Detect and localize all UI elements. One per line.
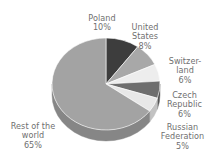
slice-label-rest-of-the-world-value: 65% xyxy=(2,141,64,151)
slice-label-poland-value: 10% xyxy=(78,23,126,33)
slice-label-rest-of-the-world: Rest of the world 65% xyxy=(2,112,64,160)
slice-label-russian-federation-value: 5% xyxy=(154,142,211,152)
slice-label-switzerland-name: Switzer- land xyxy=(169,56,202,76)
slice-label-poland: Poland 10% xyxy=(78,4,126,42)
pie-chart: Poland 10% United States 8% Switzer- lan… xyxy=(0,0,212,160)
slice-label-russian-federation-name: Russian Federation xyxy=(161,122,205,142)
slice-label-czech-republic-name: Czech Republic xyxy=(167,90,202,110)
slice-label-rest-of-the-world-name: Rest of the world xyxy=(11,121,55,141)
slice-label-united-states-name: United States xyxy=(132,22,159,42)
slice-label-russian-federation: Russian Federation 5% xyxy=(154,113,211,160)
slice-label-poland-name: Poland xyxy=(88,13,115,23)
